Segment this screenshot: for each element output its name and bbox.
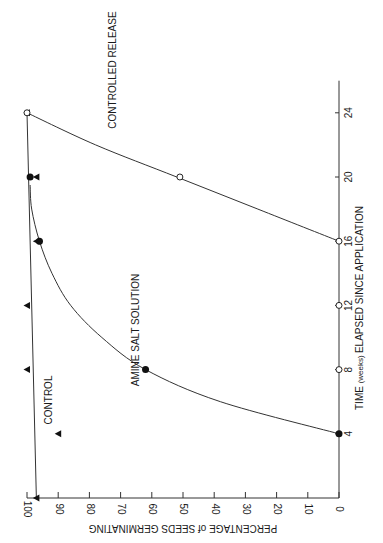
triangle-marker-icon (33, 174, 40, 181)
percentage-tick-label: 100 (22, 501, 33, 518)
control-label: CONTROL (43, 375, 54, 424)
percentage-tick-label: 20 (272, 503, 283, 515)
time-tick-label: 12 (343, 299, 354, 311)
time-tick-label: 16 (343, 235, 354, 247)
filled-circle-marker-icon (27, 174, 34, 181)
percentage-tick-label: 80 (85, 503, 96, 515)
percentage-tick-label: 90 (54, 503, 65, 515)
axes (27, 81, 339, 498)
time-tick-label: 24 (343, 107, 354, 119)
percentage-tick-label: 70 (116, 503, 127, 515)
percentage-tick-label: 50 (178, 503, 189, 515)
triangle-marker-icon (24, 302, 31, 309)
open-circle-marker-icon (24, 110, 30, 116)
filled-circle-marker-icon (336, 430, 343, 437)
open-circle-marker-icon (177, 174, 183, 180)
open-circle-marker-icon (336, 367, 342, 373)
tick-labels: 48121620241009080706050403020100 (22, 107, 353, 518)
germination-chart: 48121620241009080706050403020100 CONTROL… (0, 0, 383, 543)
series-markers (24, 109, 343, 501)
time-tick-label: 20 (343, 171, 354, 183)
percentage-tick-label: 0 (334, 506, 345, 512)
triangle-marker-icon (24, 366, 31, 373)
time-tick-label: 8 (343, 366, 354, 372)
amine-salt-solution-label: AMINE SALT SOLUTION (130, 274, 141, 386)
triangle-marker-icon (55, 430, 62, 437)
percentage-tick-label: 60 (147, 503, 158, 515)
open-circle-marker-icon (336, 302, 342, 308)
filled-circle-marker-icon (142, 366, 149, 373)
time-axis-title: TIME (weeks) ELAPSED SINCE APPLICATION (354, 206, 365, 410)
axis-and-series-labels: CONTROLLED RELEASEAMINE SALT SOLUTIONCON… (43, 11, 365, 534)
percentage-axis-title: PERCENTAGE of SEEDS GERMINATING (89, 523, 278, 534)
percentage-tick-label: 10 (303, 503, 314, 515)
series-curves (27, 113, 339, 498)
percentage-tick-label: 30 (241, 503, 252, 515)
open-circle-marker-icon (336, 238, 342, 244)
controlled-release-label: CONTROLLED RELEASE (107, 11, 118, 129)
filled-circle-marker-icon (36, 238, 43, 245)
time-tick-label: 4 (343, 431, 354, 437)
percentage-tick-label: 40 (210, 503, 221, 515)
